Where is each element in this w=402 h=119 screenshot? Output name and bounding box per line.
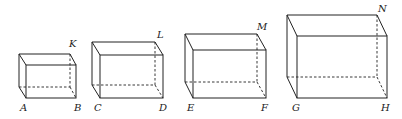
- box-4: G H N: [287, 3, 390, 113]
- box-4-bottom-left-edge: [287, 77, 297, 98]
- box-2-bottom-left-edge: [92, 85, 100, 98]
- box-2-front-face: [100, 55, 163, 98]
- box-1: A B K: [19, 38, 81, 113]
- cuboid-diagram: A B K C D L E F M G H: [0, 0, 402, 119]
- box-4-hidden-bottom-right: [377, 77, 387, 98]
- box-3-hidden-bottom-right: [257, 82, 266, 98]
- box-1-top-face: [19, 54, 76, 65]
- box-4-top-face: [287, 15, 387, 36]
- label-L: L: [156, 29, 164, 40]
- label-D: D: [158, 102, 167, 113]
- box-4-front-face: [297, 36, 387, 98]
- label-M: M: [256, 21, 268, 32]
- label-N: N: [377, 3, 388, 14]
- box-1-hidden-bottom-right: [70, 87, 76, 98]
- label-B: B: [73, 102, 81, 113]
- box-1-bottom-left-edge: [19, 87, 26, 98]
- box-3: E F M: [185, 21, 269, 113]
- label-F: F: [260, 102, 269, 113]
- box-2-top-face: [92, 42, 163, 55]
- label-E: E: [186, 102, 195, 113]
- label-K: K: [68, 38, 77, 49]
- box-2-hidden-bottom-right: [155, 85, 163, 98]
- label-G: G: [292, 102, 300, 113]
- box-3-bottom-left-edge: [185, 82, 193, 98]
- label-C: C: [94, 102, 102, 113]
- box-3-front-face: [193, 50, 266, 98]
- box-1-front-face: [26, 65, 76, 98]
- box-2: C D L: [92, 29, 167, 113]
- label-H: H: [380, 102, 390, 113]
- box-3-top-face: [185, 34, 266, 50]
- label-A: A: [19, 102, 27, 113]
